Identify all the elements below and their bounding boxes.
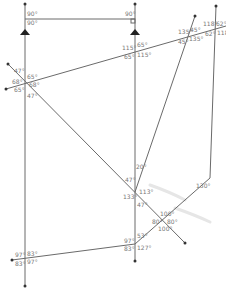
angle-label: 127° <box>137 244 151 251</box>
parallel-arrow-icon <box>130 29 140 35</box>
diagram-canvas: 90° 90° 90° 115° 65° 65° 115° 135° 45° 4… <box>0 0 226 294</box>
endpoint-dot <box>215 5 218 8</box>
right-angle-mark-icon <box>131 19 135 23</box>
endpoint-dot <box>134 260 137 263</box>
angle-label: 62° <box>205 30 216 37</box>
angle-label: 83° <box>15 260 26 267</box>
angle-label: 53° <box>137 232 148 239</box>
angle-label: 68° <box>12 78 23 85</box>
angle-label: 20° <box>136 163 147 170</box>
angle-diagram: 90° 90° 90° 115° 65° 65° 115° 135° 45° 4… <box>0 0 226 294</box>
angle-label: 83° <box>27 250 38 257</box>
angle-label: 113° <box>139 188 153 195</box>
endpoint-dot <box>24 285 27 288</box>
angle-label: 65° <box>27 73 38 80</box>
angle-label: 133° <box>123 193 137 200</box>
diagonal-line <box>8 64 185 243</box>
angle-label: 45° <box>190 26 201 33</box>
ghost-stroke <box>150 185 185 200</box>
angle-label: 90° <box>27 10 38 17</box>
angle-label: 45° <box>178 38 189 45</box>
angle-label: 115° <box>122 44 136 51</box>
angle-label: 83° <box>124 245 135 252</box>
endpoint-dot <box>184 242 187 245</box>
angle-label: 118° <box>217 29 226 36</box>
angle-label: 130° <box>196 182 210 189</box>
angle-label: 97° <box>15 251 26 258</box>
angle-label: 115° <box>137 51 151 58</box>
ghost-stroke <box>175 208 210 222</box>
parallel-arrow-icon <box>20 29 30 35</box>
angle-label: 90° <box>27 19 38 26</box>
angle-label: 62° <box>216 20 226 27</box>
angle-label: 90° <box>125 10 136 17</box>
angle-label: 97° <box>124 237 135 244</box>
angle-label: 68° <box>29 81 40 88</box>
angle-label: 80° <box>152 218 163 225</box>
angle-label: 97° <box>27 258 38 265</box>
angle-label: 80° <box>167 218 178 225</box>
angle-label: 135° <box>189 35 203 42</box>
angle-label: 100° <box>158 225 172 232</box>
endpoint-dot <box>11 259 14 262</box>
angle-label: 65° <box>137 41 148 48</box>
angle-label: 100° <box>160 210 174 217</box>
angle-label: 65° <box>14 86 25 93</box>
endpoint-dot <box>194 15 197 18</box>
angle-label: 47° <box>125 176 136 183</box>
angle-label: 47° <box>137 201 148 208</box>
endpoint-dot <box>134 3 137 6</box>
endpoint-dot <box>24 3 27 6</box>
angle-label: 47° <box>27 92 38 99</box>
angle-label: 65° <box>124 53 135 60</box>
endpoint-dot <box>7 63 10 66</box>
endpoint-dot <box>5 88 8 91</box>
angle-label: 47° <box>14 67 25 74</box>
